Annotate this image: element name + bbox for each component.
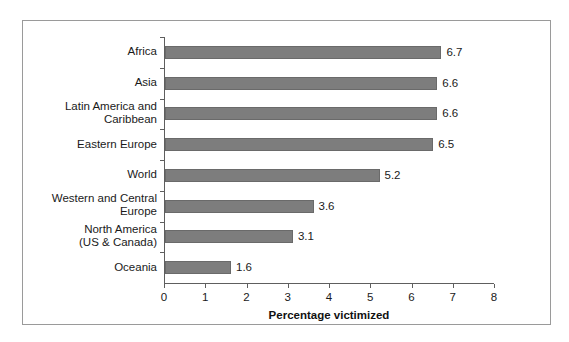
- y-tick: [160, 37, 164, 38]
- category-label: Eastern Europe: [0, 138, 157, 151]
- y-tick: [160, 99, 164, 100]
- bar-value-label: 6.6: [442, 107, 458, 120]
- x-tick-label-7: 7: [438, 290, 468, 304]
- x-axis-title: Percentage victimized: [164, 309, 494, 321]
- bar-value-label: 6.7: [446, 46, 462, 59]
- x-tick-6: [412, 284, 413, 288]
- bar-value-label: 6.5: [438, 138, 454, 151]
- x-tick-7: [453, 284, 454, 288]
- x-tick-8: [494, 284, 495, 288]
- category-label: North America (US & Canada): [0, 223, 157, 249]
- x-tick-label-4: 4: [314, 290, 344, 304]
- bar: [165, 77, 437, 90]
- x-tick-3: [288, 284, 289, 288]
- bar-value-label: 3.1: [298, 230, 314, 243]
- category-label: Western and Central Europe: [0, 192, 157, 218]
- category-label: Africa: [0, 45, 157, 58]
- x-tick-label-2: 2: [232, 290, 262, 304]
- y-tick: [160, 191, 164, 192]
- bar-value-label: 5.2: [385, 169, 401, 182]
- y-tick: [160, 222, 164, 223]
- y-tick: [160, 68, 164, 69]
- bar-value-label: 3.6: [319, 200, 335, 213]
- x-tick-2: [247, 284, 248, 288]
- bar: [165, 200, 314, 213]
- bar: [165, 230, 293, 243]
- x-tick-1: [205, 284, 206, 288]
- chart-frame: 012345678 Africa6.7Asia6.6Latin America …: [22, 20, 551, 325]
- plot-area: 012345678 Africa6.7Asia6.6Latin America …: [164, 37, 494, 283]
- bar: [165, 169, 380, 182]
- x-tick-label-8: 8: [479, 290, 509, 304]
- bar: [165, 107, 437, 120]
- bar-value-label: 6.6: [442, 77, 458, 90]
- category-label: Oceania: [0, 261, 157, 274]
- x-tick-0: [164, 284, 165, 288]
- y-axis-line: [164, 37, 165, 283]
- y-tick: [160, 160, 164, 161]
- bar: [165, 261, 231, 274]
- x-tick-5: [370, 284, 371, 288]
- x-tick-label-0: 0: [149, 290, 179, 304]
- bar: [165, 138, 433, 151]
- category-label: Latin America and Caribbean: [0, 100, 157, 126]
- y-tick: [160, 252, 164, 253]
- x-tick-label-1: 1: [190, 290, 220, 304]
- category-label: World: [0, 168, 157, 181]
- bar: [165, 46, 441, 59]
- y-tick: [160, 129, 164, 130]
- bar-value-label: 1.6: [236, 261, 252, 274]
- x-tick-label-5: 5: [355, 290, 385, 304]
- x-tick-4: [329, 284, 330, 288]
- x-tick-label-6: 6: [397, 290, 427, 304]
- category-label: Asia: [0, 76, 157, 89]
- x-tick-label-3: 3: [273, 290, 303, 304]
